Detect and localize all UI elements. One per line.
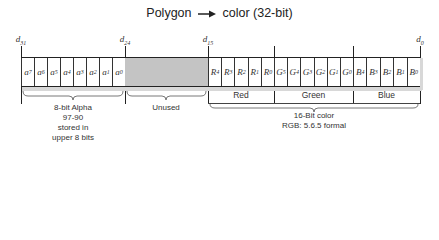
alpha-caption-line-3: stored in (33, 123, 113, 133)
color16-caption-line-1: 16-Bit color (264, 111, 364, 121)
alpha-caption-line-2: 97-90 (33, 113, 113, 123)
unused-caption: Unused (136, 103, 196, 113)
alpha-caption-line-1: 8-bit Alpha (33, 103, 113, 113)
color16-caption: 16-Bit color RGB: 5.6.5 formal (264, 111, 364, 131)
alpha-caption: 8-bit Alpha 97-90 stored in upper 8 bits (33, 103, 113, 143)
alpha-caption-line-4: upper 8 bits (33, 133, 113, 143)
color16-caption-line-2: RGB: 5.6.5 formal (264, 121, 364, 131)
